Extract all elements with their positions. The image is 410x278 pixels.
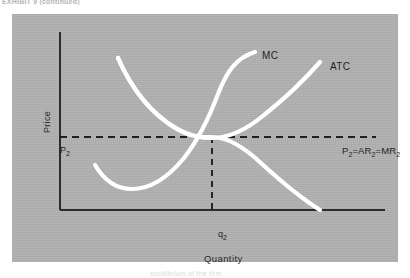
atc-curve-label: ATC [330,61,350,72]
mc-curve [95,52,255,189]
price-line-equation-label: P2=AR2=MR2 [342,145,400,158]
y-axis-title: Price [42,111,52,133]
eq-mr-sub: 2 [396,151,400,158]
x-axis-tick-q2: q2 [218,229,227,241]
p2-subscript: 2 [66,150,70,157]
figure-root: EXHIBIT 9 (continued) Price Quantity MC … [0,0,410,278]
y-axis-tick-p2: P2 [60,145,70,157]
eq-mr-base: MR [381,145,396,156]
x-axis-title: Quantity [204,253,243,264]
eq-ar-base: AR [358,145,371,156]
atc-curve-visible [118,58,320,138]
plot-canvas [12,14,398,262]
chart-plate: Price Quantity MC ATC P2 q2 P2=AR2=MR2 [12,14,398,262]
caption-bottom-fragment: equilibrium of the firm [150,270,400,277]
q2-subscript: 2 [223,234,227,241]
caption-top-fragment: EXHIBIT 9 (continued) [2,0,122,5]
mc-curve-label: MC [262,50,278,61]
